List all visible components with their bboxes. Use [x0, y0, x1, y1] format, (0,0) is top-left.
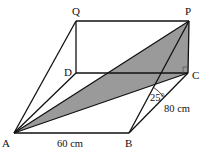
label-c: C: [192, 69, 199, 81]
label-a: A: [2, 137, 10, 149]
label-p: P: [185, 5, 191, 17]
label-d: D: [64, 66, 72, 78]
measure-angle: 25°: [150, 92, 165, 103]
label-q: Q: [72, 5, 80, 17]
measure-bc: 80 cm: [164, 103, 190, 114]
cuboid-diagram: A B C D P Q 60 cm 80 cm 25°: [0, 0, 207, 153]
label-b: B: [125, 137, 132, 149]
measure-ab: 60 cm: [57, 138, 83, 149]
